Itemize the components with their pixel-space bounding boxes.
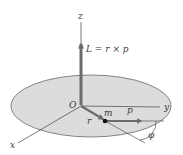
y-axis-label: y <box>163 102 170 112</box>
mass-point <box>103 119 108 124</box>
phi-angle-label: φ <box>148 130 155 140</box>
position-vector-label: r <box>87 116 92 126</box>
mass-label: m <box>104 108 113 118</box>
angular-momentum-diagram: z L = r × p O y x r m p φ <box>0 0 183 155</box>
origin-label: O <box>69 100 77 110</box>
momentum-label: p <box>127 105 133 115</box>
z-axis-label: z <box>77 11 83 21</box>
angular-momentum-label: L = r × p <box>85 44 129 54</box>
x-axis-label: x <box>10 140 15 150</box>
